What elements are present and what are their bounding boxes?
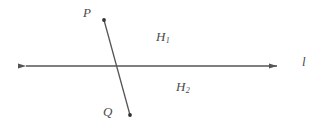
figure-canvas — [0, 0, 330, 131]
halfplane-h2-base: H — [176, 79, 185, 94]
point-q-label: Q — [103, 105, 112, 118]
point-p-label: P — [83, 6, 91, 19]
segment-pq — [104, 20, 130, 115]
halfplane-h2-subscript: 2 — [186, 86, 190, 95]
halfplane-h1-base: H — [156, 29, 165, 44]
halfplane-h2-label: H2 — [176, 80, 190, 95]
point-q-dot — [128, 113, 132, 117]
halfplane-h1-label: H1 — [156, 30, 170, 45]
line-l-label: l — [302, 55, 306, 68]
halfplane-h1-subscript: 1 — [166, 36, 170, 45]
geometry-figure: P Q H1 H2 l — [0, 0, 330, 131]
point-p-dot — [102, 18, 106, 22]
